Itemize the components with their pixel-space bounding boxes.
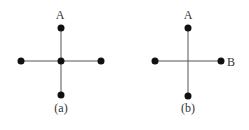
figure-a: A (a): [18, 8, 105, 115]
node-a-center: [58, 58, 65, 65]
label-a-top: A: [56, 8, 65, 22]
label-b-right: B: [227, 55, 235, 69]
figure-b: A B (b): [152, 8, 236, 115]
label-b-top: A: [184, 8, 193, 22]
node-b-bottom: [185, 93, 192, 100]
node-a-top: [58, 25, 65, 32]
node-a-bottom: [58, 92, 65, 99]
node-a-right: [98, 58, 105, 65]
node-b-top: [185, 25, 192, 32]
caption-b: (b): [181, 101, 195, 115]
node-b-right: [218, 58, 225, 65]
node-b-left: [152, 58, 159, 65]
caption-a: (a): [54, 101, 67, 115]
diagram-canvas: A (a) A B (b): [0, 0, 249, 130]
node-a-left: [18, 58, 25, 65]
